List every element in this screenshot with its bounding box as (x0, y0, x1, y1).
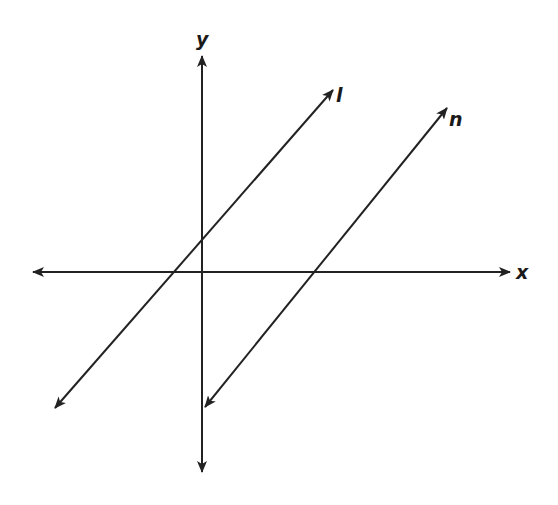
line-l (55, 90, 333, 408)
x-axis-label: x (516, 263, 528, 282)
line-n (205, 108, 447, 407)
line-l-label: l (336, 86, 343, 105)
line-n-label: n (449, 110, 463, 129)
y-axis-label: y (196, 30, 208, 49)
coordinate-diagram (0, 0, 558, 505)
